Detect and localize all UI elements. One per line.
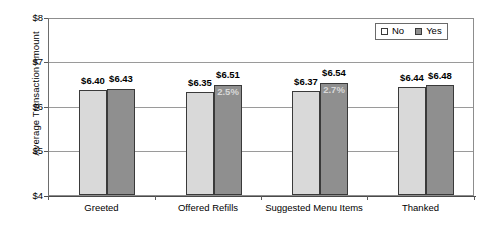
legend-swatch-yes-icon <box>415 28 422 35</box>
bar-thanked-yes <box>426 85 454 195</box>
x-tick-mark-0 <box>48 196 49 200</box>
y-tick-label-7: $7 <box>0 57 48 67</box>
x-tick-mark-3 <box>367 196 368 200</box>
x-tick-mark-2 <box>261 196 262 200</box>
legend-item-no: No <box>381 26 404 36</box>
x-tick-label-offered-refills: Offered Refills <box>155 202 261 213</box>
x-tick-label-suggested-menu-items: Suggested Menu Items <box>261 202 367 213</box>
x-axis-baseline <box>44 196 476 197</box>
bar-offered-refills-no <box>186 92 214 195</box>
gridline-7 <box>49 62 473 63</box>
bar-value-greeted-yes: $6.43 <box>93 74 149 84</box>
bar-suggested-menu-items-no <box>292 91 320 195</box>
x-tick-label-thanked: Thanked <box>367 202 474 213</box>
bar-pct-offered-refills: 2.5% <box>214 87 242 97</box>
y-tick-label-5: $5 <box>0 146 48 156</box>
legend-item-yes: Yes <box>415 26 442 36</box>
bar-suggested-menu-items-yes <box>320 83 348 195</box>
legend-label-no: No <box>392 26 404 36</box>
bar-pct-suggested-menu-items: 2.7% <box>320 85 348 95</box>
y-tick-label-6: $6 <box>0 102 48 112</box>
bar-value-suggested-menu-items-yes: $6.54 <box>306 68 362 78</box>
bar-value-offered-refills-yes: $6.51 <box>200 70 256 80</box>
legend-label-yes: Yes <box>426 26 442 36</box>
y-tick-label-4: $4 <box>0 191 48 201</box>
x-tick-mark-1 <box>155 196 156 200</box>
plot-area: $6.40 $6.43 $6.35 $6.51 2.5% $6.37 $6.54… <box>48 18 474 196</box>
bar-value-thanked-yes: $6.48 <box>412 71 468 81</box>
legend: No Yes <box>375 23 448 40</box>
bar-thanked-no <box>398 87 426 195</box>
y-tick-label-8: $8 <box>0 13 48 23</box>
x-tick-mark-4 <box>474 196 475 200</box>
bar-chart: Average Transaction Amount $8 $7 $6 $5 $… <box>0 0 484 236</box>
legend-swatch-no-icon <box>381 28 388 35</box>
bar-greeted-yes <box>107 89 135 195</box>
bar-greeted-no <box>79 90 107 195</box>
bar-offered-refills-yes <box>214 85 242 195</box>
x-tick-label-greeted: Greeted <box>48 202 155 213</box>
